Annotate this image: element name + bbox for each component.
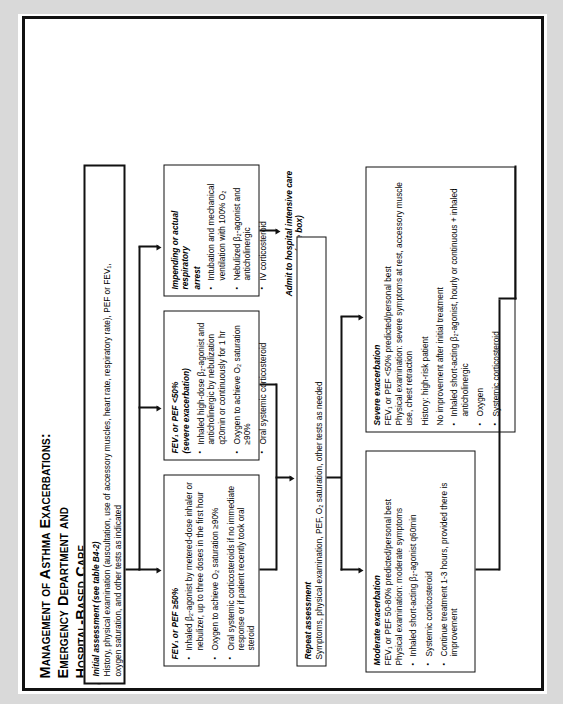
figure-frame: Management of Asthma Exacerbations: Emer… (22, 16, 544, 691)
connector-to-mild (138, 568, 158, 570)
title-line-1: Management of Asthma Exacerbations: Emer… (35, 390, 71, 678)
connector-initial-down (125, 568, 139, 570)
connector-to-moderate (340, 568, 360, 570)
box-initial-assessment[interactable]: Initial assessment (see table B4-2) Hist… (83, 164, 125, 684)
initial-assessment-line-2: oxygen saturation, and other tests as in… (112, 172, 122, 676)
arrow-to-severe-exacerbation (358, 314, 363, 320)
list-item: Nebulized β₂-agonist and anticholinergic (231, 171, 252, 280)
fev-lt-50-list: Inhaled high-dose β₂-agonist and anticho… (195, 317, 267, 453)
list-item: Oxygen to achieve O₂ saturation ≥90% (209, 481, 219, 650)
list-item: Inhaled short-acting β₂-agonist q60min (407, 457, 417, 656)
connector-bottom-rail (498, 299, 500, 570)
box-moderate-exacerbation[interactable]: Moderate exacerbation FEV₁ or PEF 50-80%… (365, 450, 475, 672)
list-item: Systemic corticosteroid (423, 457, 433, 656)
flowchart-canvas: Management of Asthma Exacerbations: Emer… (25, 19, 541, 688)
box-respiratory-arrest[interactable]: Impending or actual respiratory arrest I… (163, 164, 259, 296)
connector-moderate-out (475, 568, 499, 570)
scan-edge-right (547, 0, 563, 704)
connector-right-rail (514, 165, 516, 299)
initial-assessment-heading: Initial assessment (see table B4-2) (90, 172, 100, 676)
connector-mild-down (259, 568, 276, 570)
spacer (414, 173, 419, 425)
moderate-exacerbation-list: Inhaled short-acting β₂-agonist q60min S… (407, 457, 459, 665)
arrow-to-severe (156, 405, 161, 411)
severe-exacerbation-line-3: History: high-risk patient (419, 173, 429, 425)
scan-edge-left (0, 0, 18, 704)
moderate-exacerbation-line-1: FEV₁ or PEF 50-80% predicted/personal be… (382, 457, 392, 665)
severe-exacerbation-line-1: FEV₁ or PEF <50% predicted/personal best (382, 173, 392, 425)
box-fev-ge-50[interactable]: FEV₁ or PEF ≥50% Inhaled β₂-agonist by m… (163, 474, 259, 666)
arrow-to-repeat-assessment (289, 475, 294, 481)
repeat-assessment-line-1: Symptoms, physical examination, PEF, O₂ … (313, 243, 323, 659)
list-item: Intubation and mechanical ventilation wi… (205, 171, 226, 280)
list-item: Oral systemic corticosteroid (257, 317, 267, 444)
list-item: Inhaled high-dose β₂-agonist and anticho… (195, 317, 226, 444)
list-item: IV corticosteroid (257, 171, 267, 280)
connector-to-severe (138, 406, 158, 408)
respiratory-arrest-heading: Impending or actual respiratory (169, 171, 190, 289)
fev-lt-50-subheading: (severe exacerbation) (180, 317, 190, 453)
initial-assessment-line-1: History, physical examination (auscultat… (101, 172, 111, 676)
admit-icu-line-1: Admit to hospital intensive care (283, 158, 293, 308)
fev-lt-50-heading: FEV₁ or PEF <50% (169, 317, 179, 453)
box-severe-exacerbation[interactable]: Severe exacerbation FEV₁ or PEF <50% pre… (365, 166, 515, 432)
list-item: Inhaled short-acting β₂-agonist, hourly … (448, 173, 469, 416)
respiratory-arrest-heading-2: arrest (191, 171, 201, 289)
box-repeat-assessment[interactable]: Repeat assessment Symptoms, physical exa… (296, 236, 326, 666)
box-fev-lt-50[interactable]: FEV₁ or PEF <50% (severe exacerbation) I… (163, 310, 259, 460)
fev-ge-50-heading: FEV₁ or PEF ≥50% (169, 481, 179, 659)
connector-to-arrest (138, 245, 158, 247)
list-item: Oral systemic corticosteroids if no imme… (225, 481, 256, 650)
severe-exacerbation-heading: Severe exacerbation (371, 173, 381, 425)
list-item: Continue treatment 1-3 hours, provided t… (438, 457, 459, 656)
respiratory-arrest-list: Intubation and mechanical ventilation wi… (205, 171, 267, 289)
repeat-assessment-heading: Repeat assessment (302, 243, 312, 659)
list-item: Oxygen (474, 173, 484, 416)
moderate-exacerbation-line-2: Physical examination: moderate symptoms (393, 457, 403, 665)
scan-edge-top (0, 0, 563, 14)
list-item: Inhaled β₂-agonist by metered-dose inhal… (183, 481, 204, 650)
arrow-to-moderate (358, 567, 363, 573)
arrow-to-mild (156, 567, 161, 573)
connector-arrest-down (259, 229, 277, 231)
connector-bottom-rail-up (498, 297, 516, 299)
connector-severe-down (259, 383, 276, 385)
scanned-page: Management of Asthma Exacerbations: Emer… (0, 0, 563, 704)
moderate-exacerbation-heading: Moderate exacerbation (371, 457, 381, 665)
connector-to-severe-ex (340, 315, 360, 317)
severe-exacerbation-line-2: Physical examination: severe symptoms at… (393, 173, 414, 425)
spacer (429, 173, 434, 425)
connector-repeat-bus (340, 316, 342, 570)
arrow-to-arrest (156, 244, 161, 250)
severe-exacerbation-line-4: No improvement after initial treatment (434, 173, 444, 425)
scan-edge-bottom (0, 694, 563, 704)
list-item: Oxygen to achieve O₂ saturation ≥90% (231, 317, 252, 444)
severe-exacerbation-list: Inhaled short-acting β₂-agonist, hourly … (448, 173, 500, 425)
arrow-arrest-to-icu (275, 228, 280, 234)
fev-ge-50-list: Inhaled β₂-agonist by metered-dose inhal… (183, 481, 255, 659)
connector-repeat-down (326, 476, 341, 478)
